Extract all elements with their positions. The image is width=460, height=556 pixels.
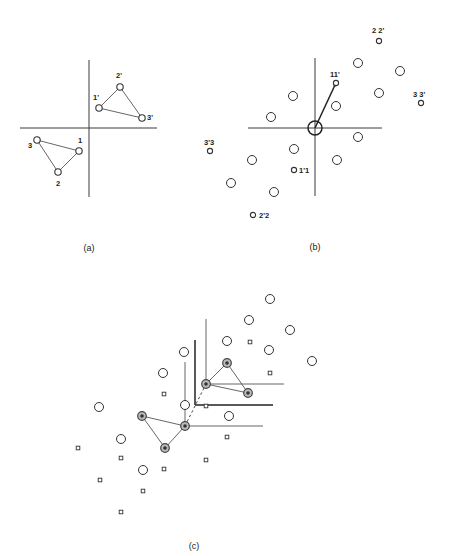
peak-label: 3 3' xyxy=(413,90,425,99)
lattice-peak xyxy=(225,412,234,421)
panel-b: 2 2'11'3 3'3'31'12'2 xyxy=(204,26,425,220)
atom-point-2p xyxy=(117,84,123,90)
self-peak xyxy=(291,167,296,172)
square-marker xyxy=(204,458,208,462)
peak-label: 3'3 xyxy=(204,138,214,147)
self-peak xyxy=(250,212,255,217)
square-marker xyxy=(225,435,229,439)
lattice-peak xyxy=(181,401,190,410)
square-marker xyxy=(119,456,123,460)
lattice-peak xyxy=(245,316,254,325)
lattice-peak xyxy=(180,348,189,357)
lattice-peak xyxy=(159,369,168,378)
lattice-peak xyxy=(117,435,126,444)
peak-label: 11' xyxy=(330,70,340,79)
caption-b: (b) xyxy=(310,242,321,252)
atom-point-1 xyxy=(76,148,82,154)
atom-label-3: 3 xyxy=(28,141,32,150)
cross-peak xyxy=(375,89,384,98)
lattice-peak xyxy=(223,337,232,346)
square-marker xyxy=(141,489,145,493)
square-marker xyxy=(248,340,252,344)
atom-label-2p: 2' xyxy=(116,71,122,80)
square-marker xyxy=(162,467,166,471)
lattice-peak xyxy=(266,295,275,304)
cross-peak xyxy=(248,156,257,165)
square-marker xyxy=(76,446,80,450)
lattice-peak xyxy=(286,326,295,335)
peak-label: 2'2 xyxy=(259,211,269,220)
marked-atom-core xyxy=(183,424,187,428)
captions: (a) (b) (c) xyxy=(84,242,321,551)
cross-peak xyxy=(354,59,363,68)
cross-peak xyxy=(290,145,299,154)
atom-label-1: 1 xyxy=(78,136,82,145)
caption-c: (c) xyxy=(189,541,200,551)
triangle-lower xyxy=(142,416,185,448)
cross-peak xyxy=(396,67,405,76)
peak-label: 2 2' xyxy=(372,26,384,35)
atom-point-3 xyxy=(34,137,40,143)
square-marker xyxy=(162,392,166,396)
figure-canvas: 1231'2'3' 2 2'11'3 3'3'31'12'2 (a) (b) (… xyxy=(0,0,460,556)
self-peak xyxy=(207,148,212,153)
triangle-outline xyxy=(99,87,142,118)
marked-atom-core xyxy=(140,414,144,418)
cross-peak xyxy=(270,188,279,197)
cross-peak xyxy=(333,156,342,165)
cross-peak xyxy=(332,102,341,111)
square-marker xyxy=(119,510,123,514)
diagram-svg: 1231'2'3' 2 2'11'3 3'3'31'12'2 (a) (b) (… xyxy=(0,0,460,556)
cross-peak xyxy=(354,133,363,142)
lattice-peak xyxy=(95,403,104,412)
panel-c xyxy=(76,295,316,514)
square-marker xyxy=(98,478,102,482)
atom-label-2: 2 xyxy=(56,179,60,188)
cross-peak xyxy=(267,113,276,122)
atom-label-1p: 1' xyxy=(93,93,99,102)
panel-a: 1231'2'3' xyxy=(20,60,157,197)
marked-atom-core xyxy=(225,361,229,365)
atom-point-3p xyxy=(139,115,145,121)
marked-atom-core xyxy=(204,382,208,386)
square-marker xyxy=(268,371,272,375)
lattice-peak xyxy=(139,466,148,475)
self-peak xyxy=(376,38,381,43)
lattice-peak xyxy=(265,346,274,355)
square-marker xyxy=(204,404,208,408)
peak-label: 1'1 xyxy=(299,166,309,175)
self-peak xyxy=(418,100,423,105)
marked-atom-core xyxy=(246,391,250,395)
cross-peak xyxy=(289,92,298,101)
marked-atom-core xyxy=(163,446,167,450)
atom-label-3p: 3' xyxy=(147,113,153,122)
caption-a: (a) xyxy=(84,243,95,253)
lattice-peak xyxy=(308,357,317,366)
atom-point-2 xyxy=(55,169,61,175)
cross-peak xyxy=(227,179,236,188)
triangle-outline xyxy=(37,140,79,172)
atom-point-1p xyxy=(96,105,102,111)
self-peak xyxy=(333,80,338,85)
